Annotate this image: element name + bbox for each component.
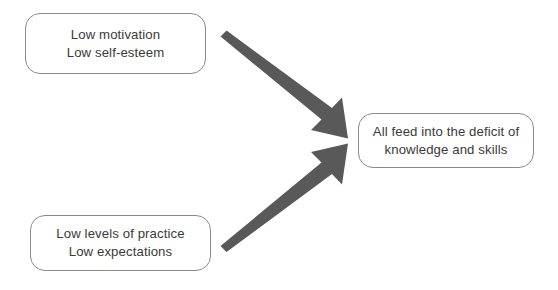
arrow-bottom-to-deficit-icon	[221, 144, 349, 253]
node-deficit-line-2: knowledge and skills	[385, 141, 508, 159]
diagram-canvas: Low motivation Low self-esteem Low level…	[0, 0, 558, 290]
node-low-motivation: Low motivation Low self-esteem	[25, 13, 206, 74]
node-deficit: All feed into the deficit of knowledge a…	[358, 113, 534, 168]
node-low-practice-line-1: Low levels of practice	[56, 225, 184, 243]
node-low-motivation-line-1: Low motivation	[71, 26, 160, 44]
node-low-motivation-line-2: Low self-esteem	[67, 44, 165, 62]
arrow-top-to-deficit-icon	[221, 31, 349, 139]
node-low-practice-line-2: Low expectations	[69, 243, 173, 261]
node-deficit-line-1: All feed into the deficit of	[373, 123, 519, 141]
node-low-practice: Low levels of practice Low expectations	[30, 215, 211, 271]
